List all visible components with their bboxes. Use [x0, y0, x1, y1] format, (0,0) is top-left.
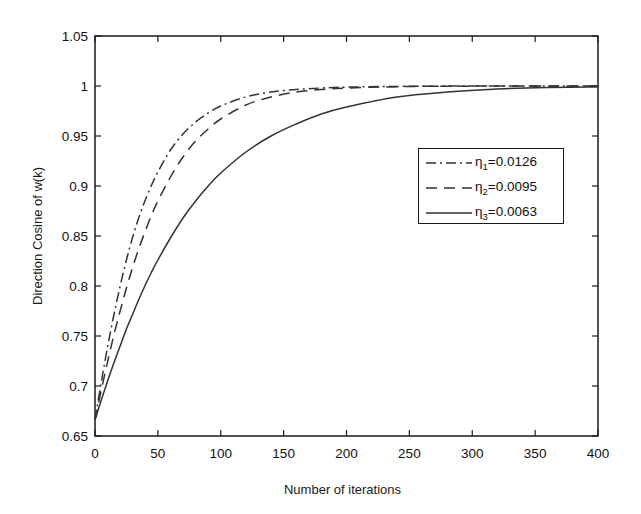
x-tick-label: 250 [398, 446, 421, 461]
legend-line-sample-eta1 [425, 156, 473, 170]
chart-canvas [0, 0, 641, 514]
x-tick-label: 350 [524, 446, 547, 461]
legend-item-eta1: η1=0.0126 [419, 150, 565, 175]
legend: η1=0.0126η2=0.0095η3=0.0063 [418, 148, 564, 224]
y-tick-label: 1.05 [40, 29, 88, 44]
x-tick-label: 0 [91, 446, 99, 461]
x-tick-label: 400 [587, 446, 610, 461]
y-tick-label: 1 [40, 79, 88, 94]
legend-item-eta3: η3=0.0063 [419, 200, 565, 225]
legend-label-eta2: η2=0.0095 [475, 179, 537, 197]
y-tick-label: 0.65 [40, 429, 88, 444]
plot-frame [95, 36, 598, 436]
x-axis-label: Number of iterations [22, 482, 641, 497]
x-tick-label: 100 [209, 446, 232, 461]
x-tick-label: 200 [335, 446, 358, 461]
legend-label-eta1: η1=0.0126 [475, 154, 537, 172]
y-tick-label: 0.85 [40, 229, 88, 244]
legend-item-eta2: η2=0.0095 [419, 175, 565, 200]
figure-container: Number of iterations Direction Cosine of… [0, 0, 641, 514]
legend-line-sample-eta3 [425, 206, 473, 220]
legend-label-eta3: η3=0.0063 [475, 204, 537, 222]
y-tick-label: 0.8 [40, 279, 88, 294]
y-tick-label: 0.75 [40, 329, 88, 344]
x-tick-label: 300 [461, 446, 484, 461]
x-tick-label: 50 [150, 446, 165, 461]
x-tick-label: 150 [272, 446, 295, 461]
y-tick-label: 0.95 [40, 129, 88, 144]
legend-line-sample-eta2 [425, 181, 473, 195]
y-tick-label: 0.9 [40, 179, 88, 194]
y-tick-label: 0.7 [40, 379, 88, 394]
